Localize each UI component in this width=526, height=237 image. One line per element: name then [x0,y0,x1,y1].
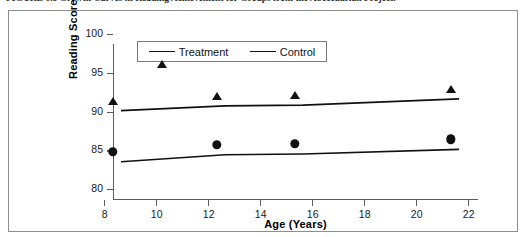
figure-caption: FIGURE 6.5 Growth Curves in Reading Achi… [6,0,522,3]
y-tick-100: 100 [107,34,113,35]
y-tick-90: 90 [107,112,113,113]
x-tick-10: 10 [156,200,157,206]
y-tick-80: 80 [107,189,113,190]
figure-frame: 80859095100 810121416182022 Reading Scor… [8,10,518,232]
x-axis-title: Age (Years) [113,218,478,230]
line-treatment [121,99,459,111]
x-tick-16: 16 [312,200,313,206]
y-tick-label-100: 100 [85,27,103,39]
x-tick-8: 8 [104,200,105,206]
legend-item-treatment: Treatment [149,46,229,58]
y-tick-label-90: 90 [91,105,103,117]
point-treatment-age-15 [290,91,300,99]
point-treatment-age-21 [446,85,456,93]
x-tick-18: 18 [364,200,365,206]
x-tick-label-8: 8 [102,208,108,220]
y-tick-label-85: 85 [91,143,103,155]
point-control-age-12 [212,140,221,149]
point-treatment-age-8 [108,97,118,105]
y-tick-95: 95 [107,73,113,74]
legend-item-control: Control [250,46,315,58]
figure-caption-text: Growth Curves in Reading Achievement for… [60,0,396,3]
point-control-age-8 [108,147,117,156]
figure-number: FIGURE 6.5 [6,0,57,3]
x-tick-20: 20 [416,200,417,206]
y-axis-title: Reading Score [67,0,79,79]
y-tick-label-80: 80 [91,182,103,194]
x-tick-14: 14 [260,200,261,206]
x-tick-12: 12 [208,200,209,206]
y-axis-line [113,44,114,200]
chart-legend: Treatment Control [137,41,327,62]
line-control [121,149,459,161]
y-tick-label-95: 95 [91,66,103,78]
triangle-marker-icon [149,47,175,57]
point-control-age-15 [290,139,299,148]
x-axis-line [113,199,478,200]
x-tick-22: 22 [468,200,469,206]
point-treatment-age-12 [212,92,222,100]
legend-label-control: Control [280,46,315,58]
point-control-age-21 [446,135,455,144]
legend-label-treatment: Treatment [179,46,229,58]
circle-marker-icon [250,47,276,57]
